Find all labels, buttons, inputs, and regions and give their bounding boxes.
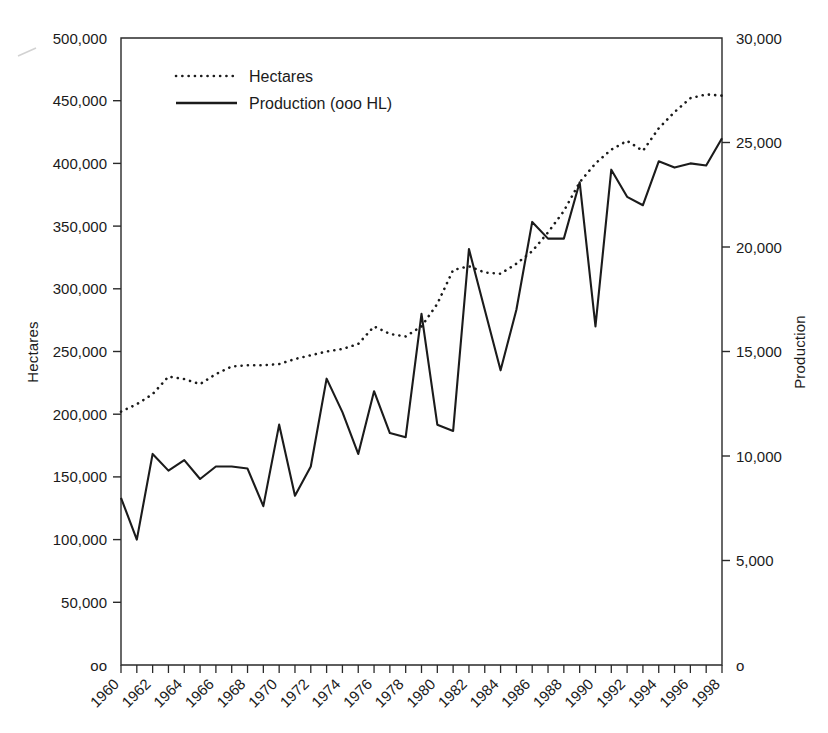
right-tick-label: o [736,657,744,674]
x-tick-label: 1982 [434,675,470,711]
plot-frame [121,38,722,665]
left-tick-label: oo [90,657,107,674]
right-tick-label: 15,000 [736,343,782,360]
left-axis-ticks [113,101,121,603]
right-tick-label: 5,000 [736,552,774,569]
x-tick-label: 1976 [340,675,376,711]
x-tick-label: 1988 [529,675,565,711]
x-axis-ticks [121,665,722,673]
right-tick-label: 30,000 [736,30,782,47]
right-tick-label: 20,000 [736,239,782,256]
left-tick-label: 50,000 [61,594,107,611]
chart-figure: oo50,000100,000150,000200,000250,000300,… [0,0,828,733]
x-tick-label: 1980 [403,675,439,711]
x-tick-label: 1990 [561,675,597,711]
right-tick-label: 25,000 [736,134,782,151]
x-tick-label: 1992 [593,675,629,711]
left-tick-label: 100,000 [53,531,107,548]
right-tick-label: 10,000 [736,448,782,465]
x-tick-label: 1994 [624,675,660,711]
legend-label-hectares: Hectares [249,68,313,85]
x-tick-label: 1964 [150,675,186,711]
line-chart: oo50,000100,000150,000200,000250,000300,… [0,0,828,733]
left-tick-label: 200,000 [53,406,107,423]
x-tick-label: 1960 [87,675,123,711]
left-tick-label: 400,000 [53,155,107,172]
left-tick-label: 300,000 [53,280,107,297]
x-tick-label: 1978 [371,675,407,711]
left-tick-label: 250,000 [53,343,107,360]
left-tick-label: 500,000 [53,30,107,47]
left-axis-tick-labels: oo50,000100,000150,000200,000250,000300,… [53,30,107,674]
left-tick-label: 150,000 [53,468,107,485]
x-tick-label: 1996 [656,675,692,711]
plot-background [121,38,722,665]
left-tick-label: 450,000 [53,92,107,109]
x-tick-label: 1974 [308,675,344,711]
right-axis-title: Production [791,315,808,389]
right-axis-ticks [722,143,730,561]
x-tick-label: 1984 [466,675,502,711]
left-tick-label: 350,000 [53,218,107,235]
scan-artifact-mark [18,48,36,56]
x-tick-label: 1970 [245,675,281,711]
right-axis-tick-labels: o5,00010,00015,00020,00025,00030,000 [736,30,782,674]
x-tick-label: 1972 [276,675,312,711]
legend-label-production: Production (ooo HL) [249,95,392,112]
left-axis-title: Hectares [24,321,41,383]
x-axis-tick-labels: 1960196219641966196819701972197419761978… [87,675,724,711]
x-tick-label: 1962 [118,675,154,711]
x-tick-label: 1968 [213,675,249,711]
x-tick-label: 1986 [498,675,534,711]
x-tick-label: 1998 [688,675,724,711]
x-tick-label: 1966 [181,675,217,711]
